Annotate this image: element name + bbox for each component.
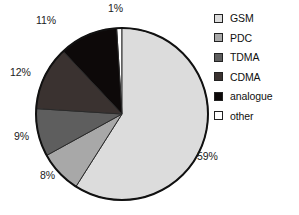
legend-label-tdma: TDMA [230, 51, 259, 63]
pie-chart-svg [0, 0, 215, 215]
pie-chart-figure: 1% 11% 12% 9% 8% 59% GSMPDCTDMACDMAanalo… [0, 0, 299, 215]
legend-item-other[interactable]: other [214, 107, 299, 125]
slice-label-other: 1% [108, 2, 123, 14]
slice-label-tdma: 9% [14, 130, 29, 142]
legend-swatch-other [214, 111, 223, 120]
legend-item-analogue[interactable]: analogue [214, 87, 299, 105]
legend-label-pdc: PDC [230, 32, 252, 44]
slice-label-pdc: 8% [40, 169, 55, 181]
legend-item-gsm[interactable]: GSM [214, 9, 299, 27]
slice-label-gsm: 59% [197, 150, 218, 162]
legend-label-gsm: GSM [230, 12, 254, 24]
legend-item-cdma[interactable]: CDMA [214, 68, 299, 86]
legend-item-pdc[interactable]: PDC [214, 29, 299, 47]
legend-label-cdma: CDMA [230, 71, 261, 83]
slice-label-cdma: 12% [10, 66, 31, 78]
legend-label-analogue: analogue [230, 90, 272, 102]
slice-label-analogue: 11% [36, 14, 56, 26]
pie-chart-plot-area [0, 0, 215, 215]
legend-swatch-tdma [214, 53, 223, 62]
legend-swatch-gsm [214, 14, 223, 23]
legend-item-tdma[interactable]: TDMA [214, 48, 299, 66]
legend-label-other: other [230, 110, 253, 122]
legend-swatch-analogue [214, 92, 223, 101]
legend-swatch-pdc [214, 33, 223, 42]
chart-legend: GSMPDCTDMACDMAanalogueother [214, 9, 299, 126]
legend-swatch-cdma [214, 72, 223, 81]
